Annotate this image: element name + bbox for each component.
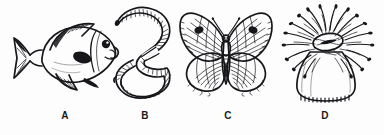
figure-panel-a-fish[interactable] bbox=[6, 0, 124, 108]
figure-panel-d-sea-anemone[interactable] bbox=[276, 0, 376, 108]
fish-icon bbox=[6, 0, 124, 108]
figure-panel-c-butterfly[interactable] bbox=[176, 0, 276, 108]
fish-eye bbox=[102, 40, 110, 48]
panel-label-a: A bbox=[45, 110, 85, 122]
panel-label-d: D bbox=[305, 110, 345, 122]
panel-label-b: B bbox=[125, 110, 165, 122]
animal-identification-figure: A B C D bbox=[0, 0, 384, 135]
panel-label-c: C bbox=[208, 110, 248, 122]
sea-anemone-icon bbox=[276, 0, 376, 108]
butterfly-icon bbox=[176, 0, 276, 108]
